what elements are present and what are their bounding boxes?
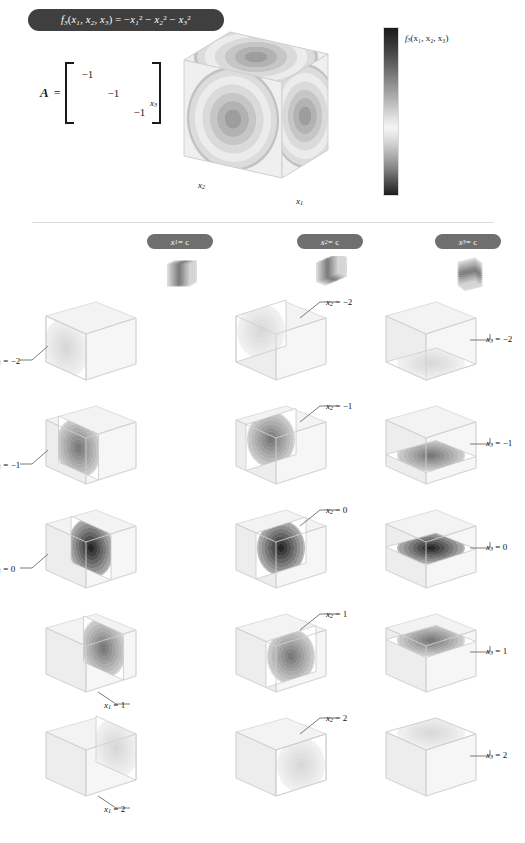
slice-cell-x1-0: [18, 496, 173, 602]
slice-caption-x3-1: x3 = 1: [486, 646, 507, 656]
column-header-x2: x2 = c: [297, 234, 363, 296]
colorbar-label: f3(x₁, x₂, x₃): [405, 33, 449, 43]
matrix-grid: −1−1−1: [74, 64, 152, 122]
matrix-bracket-left: [65, 62, 74, 124]
matrix-bracket-right: [152, 62, 161, 124]
slice-caption-x1-0: x1 = 0: [0, 564, 15, 574]
hero-axis-label-x1: x1: [296, 196, 303, 206]
slice-caption-x1-neg1: x1 = −1: [0, 460, 20, 470]
matrix-definition: A = −1−1−1: [40, 62, 161, 124]
matrix-equals: =: [54, 86, 61, 101]
slice-caption-x3-0: x3 = 0: [486, 542, 507, 552]
colorbar-strip: [383, 27, 399, 196]
slice-cell-x1-neg2: [18, 288, 173, 394]
column-header-x3: x3 = c: [435, 234, 501, 296]
slice-cube-svg: [18, 288, 173, 394]
slice-cube-svg: [18, 600, 173, 706]
slice-cell-x1-1: [18, 600, 173, 706]
matrix-cell-3-3: −1: [134, 106, 146, 118]
matrix-cell-1-1: −1: [82, 68, 94, 80]
slice-caption-x1-neg2: x1 = −2: [0, 356, 20, 366]
matrix-label: A: [40, 85, 49, 101]
column-header-x1: x1 = c: [147, 234, 213, 296]
section-divider: [32, 222, 494, 223]
column-header-pill-x2: x2 = c: [297, 234, 363, 249]
slice-caption-x2-2: x2 = 2: [326, 713, 347, 723]
slice-caption-x1-2: x1 = 2: [104, 804, 125, 814]
colorbar-group: f3(x₁, x₂, x₃): [383, 27, 399, 196]
figure-title-formula: f3(x1, x2, x3) = −x12 − x22 − x32: [61, 14, 191, 27]
column-header-pill-x1: x1 = c: [147, 234, 213, 249]
hero-cube-plot: x3 x2 x1: [168, 26, 348, 211]
slice-caption-x3-2: x3 = 2: [486, 750, 507, 760]
slice-caption-x2-neg2: x2 = −2: [326, 297, 352, 307]
slice-caption-x2-0: x2 = 0: [326, 505, 347, 515]
hero-axis-label-x2: x2: [198, 180, 205, 190]
column-header-pill-x3: x3 = c: [435, 234, 501, 249]
slice-cell-x1-2: [18, 704, 173, 810]
slice-caption-x2-neg1: x2 = −1: [326, 401, 352, 411]
slice-cube-svg: [18, 392, 173, 498]
slice-caption-x3-neg2: x3 = −2: [486, 334, 512, 344]
figure-page: f3(x1, x2, x3) = −x12 − x22 − x32 A = −1…: [0, 0, 525, 843]
hero-cube-svg: [168, 26, 348, 211]
slice-cube-svg: [18, 704, 173, 810]
slice-caption-x3-neg1: x3 = −1: [486, 438, 512, 448]
hero-axis-label-x3: x3: [150, 98, 157, 108]
matrix-cell-2-2: −1: [108, 87, 120, 99]
slice-cube-svg: [18, 496, 173, 602]
slice-caption-x2-1: x2 = 1: [326, 609, 347, 619]
slice-cell-x1-neg1: [18, 392, 173, 498]
